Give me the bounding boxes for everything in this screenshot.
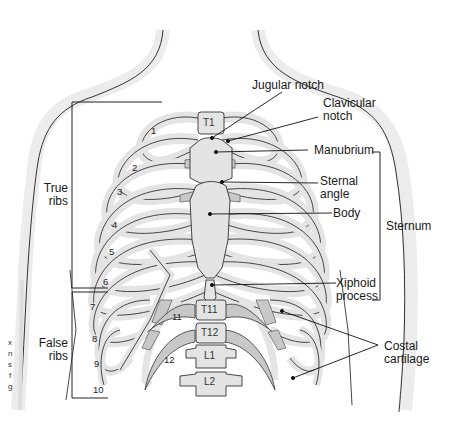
rib-number-5: 5: [109, 246, 114, 257]
skeleton-illustration: [0, 0, 454, 431]
vertebra-L1: L1: [204, 350, 215, 361]
label-clavicular-notch-line2: notch: [323, 110, 352, 123]
thoracic-cage-diagram: Jugular notch Clavicular notch Manubrium…: [0, 0, 454, 431]
rib-number-11: 11: [172, 311, 182, 322]
cropped-text-fragment: f: [9, 370, 11, 381]
rib-number-12: 12: [164, 354, 175, 365]
label-manubrium: Manubrium: [314, 144, 374, 157]
label-costal-cartilage-line2: cartilage: [384, 353, 429, 366]
vertebra-L2: L2: [204, 376, 215, 387]
rib-number-1: 1: [151, 125, 156, 136]
label-false-ribs-line2: ribs: [36, 350, 68, 363]
label-sternal-angle-line2: angle: [320, 188, 349, 201]
rib-number-4: 4: [112, 219, 117, 230]
rib-number-10: 10: [93, 384, 104, 395]
vertebra-T11: T11: [201, 304, 218, 315]
rib-number-2: 2: [132, 162, 137, 173]
rib-number-8: 8: [92, 333, 97, 344]
label-xiphoid-line2: process: [336, 290, 378, 303]
cropped-text-fragment: x: [8, 337, 12, 348]
label-body: Body: [333, 207, 360, 220]
rib-number-3: 3: [117, 186, 122, 197]
vertebra-T12: T12: [201, 327, 218, 338]
rib-number-6: 6: [103, 276, 108, 287]
vertebra-T1: T1: [203, 117, 215, 128]
cropped-text-fragment: s: [8, 359, 12, 370]
cropped-text-fragment: g: [8, 381, 12, 392]
rib-number-7: 7: [90, 301, 95, 312]
rib-number-9: 9: [94, 358, 99, 369]
label-true-ribs-line2: ribs: [40, 195, 68, 208]
cropped-text-fragment: n: [8, 348, 12, 359]
label-sternum: Sternum: [386, 220, 431, 233]
label-jugular-notch: Jugular notch: [252, 79, 324, 92]
